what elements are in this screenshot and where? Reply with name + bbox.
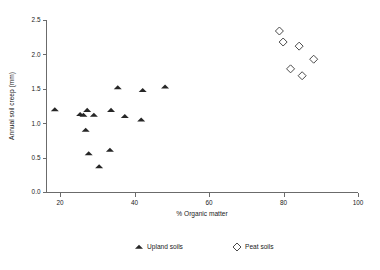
x-tick-label: 100: [353, 199, 364, 206]
y-tick-label: 0.0: [32, 188, 41, 195]
y-tick-label: 1.0: [32, 120, 41, 127]
x-axis-title: % Organic matter: [176, 210, 228, 218]
y-axis-title: Annual soil creep (mm): [8, 72, 16, 140]
y-tick-group: 0.00.51.01.52.02.5: [32, 16, 47, 195]
data-point-triangle: [121, 114, 129, 118]
data-point-triangle: [85, 151, 93, 155]
plot-canvas: 0.00.51.01.52.02.5 Annual soil creep (mm…: [0, 0, 380, 270]
y-tick-label: 0.5: [32, 154, 41, 161]
data-point-diamond: [275, 27, 283, 35]
y-axis: 0.00.51.01.52.02.5 Annual soil creep (mm…: [8, 16, 47, 195]
data-point-diamond: [298, 72, 306, 80]
legend-marker-diamond: [233, 243, 241, 251]
x-tick-label: 80: [280, 199, 288, 206]
data-point-triangle: [95, 164, 103, 168]
data-point-triangle: [137, 117, 145, 121]
data-point-triangle: [83, 108, 91, 112]
data-point-diamond: [295, 42, 303, 50]
legend-item-peat-soils: Peat soils: [233, 243, 274, 251]
data-point-triangle: [51, 107, 59, 111]
data-point-triangle: [161, 84, 169, 88]
y-tick-label: 2.0: [32, 51, 41, 58]
data-point-triangle: [107, 108, 115, 112]
legend-label: Upland soils: [147, 243, 184, 251]
data-point-diamond: [287, 65, 295, 73]
data-point-triangle: [114, 85, 122, 89]
x-axis: 20406080100 % Organic matter: [47, 193, 364, 219]
chart-legend: Upland soilsPeat soils: [135, 243, 274, 251]
x-tick-label: 60: [205, 199, 213, 206]
data-points-layer: [51, 27, 318, 168]
data-point-diamond: [279, 38, 287, 46]
x-tick-label: 20: [56, 199, 64, 206]
x-tick-label: 40: [131, 199, 139, 206]
data-point-triangle: [106, 148, 114, 152]
scatter-chart: 0.00.51.01.52.02.5 Annual soil creep (mm…: [0, 0, 380, 270]
data-point-triangle: [82, 128, 90, 132]
x-tick-group: 20406080100: [56, 193, 363, 206]
data-point-triangle: [90, 113, 98, 117]
y-tick-label: 1.5: [32, 85, 41, 92]
data-point-diamond: [310, 55, 318, 63]
legend-label: Peat soils: [245, 243, 274, 250]
y-tick-label: 2.5: [32, 16, 41, 23]
series-peat-soils: [275, 27, 317, 80]
data-point-triangle: [139, 88, 147, 92]
series-upland-soils: [51, 84, 169, 168]
legend-item-upland-soils: Upland soils: [135, 243, 184, 251]
legend-marker-triangle: [135, 245, 143, 249]
